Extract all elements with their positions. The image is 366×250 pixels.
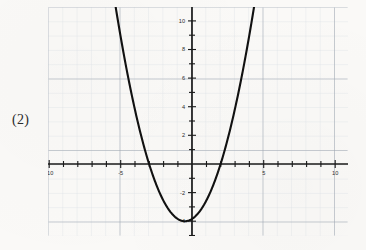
y-tick-label-4: 4	[182, 104, 185, 110]
coordinate-plane: -10 -5 5 10 10 8 6 4 2 -2 -4	[48, 7, 348, 236]
y-tick-label-6: 6	[182, 75, 185, 81]
worksheet-page: (2)	[0, 0, 366, 250]
x-tick-label-10: 10	[332, 170, 338, 176]
y-tick-label-8: 8	[182, 46, 185, 52]
y-tick-label-neg2: -2	[180, 190, 185, 196]
y-tick-label-10: 10	[179, 18, 185, 24]
x-tick-label-5: 5	[262, 170, 265, 176]
x-tick-label-neg5: -5	[118, 170, 123, 176]
graph-plot-area: -10 -5 5 10 10 8 6 4 2 -2 -4	[48, 7, 348, 236]
x-tick-label-neg10: -10	[48, 170, 53, 176]
y-tick-label-2: 2	[182, 132, 185, 138]
major-gridlines	[49, 8, 348, 236]
problem-number-label: (2)	[12, 112, 29, 128]
